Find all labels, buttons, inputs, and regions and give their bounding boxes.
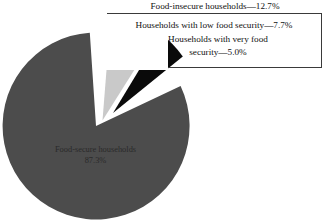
label-very-low-line1: Households with very food	[168, 34, 268, 44]
label-very-low-food-security: Households with very food security—5.0%	[118, 33, 318, 58]
label-very-low-line2: security—5.0%	[189, 47, 246, 57]
label-food-insecure-total: Food-insecure households—12.7%	[104, 0, 326, 12]
label-food-secure-text: Food-secure households	[55, 145, 136, 154]
label-low-food-security: Households with low food security—7.7%	[110, 19, 318, 31]
label-food-secure: Food-secure households 87.3%	[18, 144, 173, 166]
pie-chart-figure: Food-insecure households—12.7% Household…	[0, 0, 328, 223]
label-food-secure-value: 87.3%	[18, 155, 173, 166]
